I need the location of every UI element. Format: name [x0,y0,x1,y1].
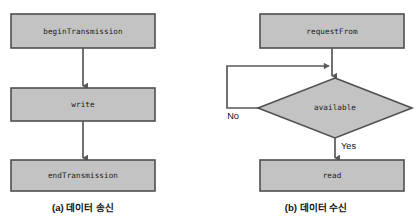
node-end-transmission[interactable]: endTransmission [11,160,155,191]
branch-label-yes: Yes [341,141,356,151]
available-label: available [314,103,356,112]
read-label: read [323,171,342,180]
node-write[interactable]: write [11,88,155,121]
flowchart-canvas: beginTransmission write endTransmission … [0,0,417,222]
end-transmission-label: endTransmission [48,171,118,180]
panel-a-caption: (a) 데이터 송신 [52,202,114,213]
request-from-label: requestFrom [306,27,358,36]
flowchart-figure: beginTransmission write endTransmission … [0,0,417,222]
panel-a-group: beginTransmission write endTransmission … [11,14,155,213]
begin-transmission-label: beginTransmission [43,27,122,36]
node-read[interactable]: read [260,160,404,191]
panel-b-caption: (b) 데이터 수신 [285,202,348,213]
write-label: write [71,100,95,109]
panel-b-group: requestFrom available No Yes read [227,14,412,213]
node-begin-transmission[interactable]: beginTransmission [11,14,155,48]
branch-label-no: No [227,111,239,121]
node-request-from[interactable]: requestFrom [260,14,404,48]
node-available[interactable]: available [258,78,412,138]
